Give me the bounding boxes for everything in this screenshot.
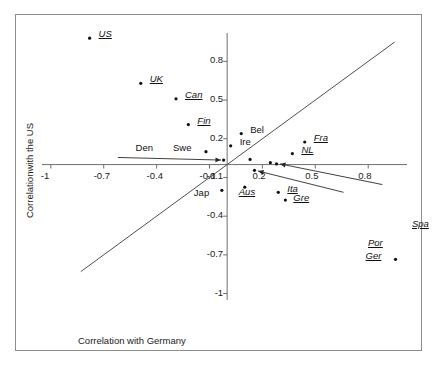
- y-tick-label: -0.4: [199, 209, 223, 220]
- point-label-fra: Fra: [314, 132, 328, 143]
- x-tick-label: -0.4: [147, 170, 163, 181]
- point-label-nl: NL: [301, 144, 313, 155]
- data-point: [88, 37, 91, 40]
- y-tick-label: -0.1: [199, 170, 223, 181]
- data-point: [394, 258, 397, 261]
- data-point: [139, 82, 142, 85]
- point-label-swe: Swe: [173, 142, 191, 153]
- data-point: [277, 191, 280, 194]
- identity-line: [81, 42, 395, 272]
- x-tick-label: 0.5: [305, 170, 318, 181]
- leader-line: [118, 157, 221, 162]
- data-point: [220, 189, 223, 192]
- point-label-jap: Jap: [194, 187, 209, 198]
- data-point: [269, 161, 272, 164]
- y-tick-label: -0.7: [199, 248, 223, 259]
- chart-page: USUKCanFinBelIreSweFraNLDenJapAusItaGreP…: [0, 0, 436, 374]
- point-label-bel: Bel: [250, 124, 264, 135]
- leader-stem: [118, 157, 221, 160]
- x-tick-label: -1: [41, 170, 49, 181]
- data-point: [174, 97, 177, 100]
- point-label-gre: Gre: [293, 192, 309, 203]
- identity-reference-line: [81, 42, 395, 272]
- y-tick-label: -1: [199, 287, 223, 298]
- data-point: [291, 152, 294, 155]
- y-tick-label: 0.5: [199, 93, 223, 104]
- point-label-spa: Spa: [412, 218, 429, 229]
- x-tick-label: 0.8: [358, 170, 371, 181]
- x-tick-label: 0.2: [252, 170, 265, 181]
- data-point: [229, 144, 232, 147]
- data-point: [204, 150, 207, 153]
- point-label-us: US: [99, 28, 112, 39]
- x-tick-label: -0.7: [94, 170, 110, 181]
- point-label-ger: Ger: [366, 250, 382, 261]
- data-point: [222, 158, 225, 161]
- leader-arrowhead: [215, 157, 221, 162]
- x-axis-title: Correlation with Germany: [78, 335, 186, 346]
- leader-line: [258, 170, 344, 192]
- data-point: [248, 158, 251, 161]
- y-tick-label: 0.2: [199, 132, 223, 143]
- data-point: [187, 123, 190, 126]
- data-point: [275, 162, 278, 165]
- point-label-uk: UK: [150, 73, 163, 84]
- point-label-fin: Fin: [197, 115, 210, 126]
- point-label-aus: Aus: [239, 186, 255, 197]
- point-label-por: Por: [368, 237, 383, 248]
- point-label-den: Den: [136, 142, 153, 153]
- y-tick-label: 0.8: [199, 54, 223, 65]
- data-points-group: [88, 37, 397, 261]
- point-label-ire: Ire: [240, 136, 251, 147]
- data-point: [284, 198, 287, 201]
- chart-frame: USUKCanFinBelIreSweFraNLDenJapAusItaGreP…: [15, 14, 422, 351]
- y-axis-title: Correlationwith the US: [24, 101, 35, 241]
- data-point: [240, 132, 243, 135]
